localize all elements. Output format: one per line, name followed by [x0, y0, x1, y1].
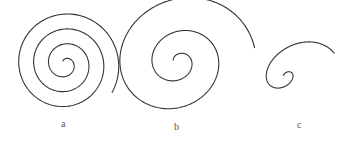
spiral-a: [9, 4, 129, 119]
label-b: b: [174, 121, 179, 132]
label-a: a: [61, 118, 65, 129]
spiral-b: [100, 0, 265, 126]
spiral-c: [258, 26, 335, 97]
label-c: c: [297, 119, 301, 130]
spiral-figure: [0, 0, 362, 141]
